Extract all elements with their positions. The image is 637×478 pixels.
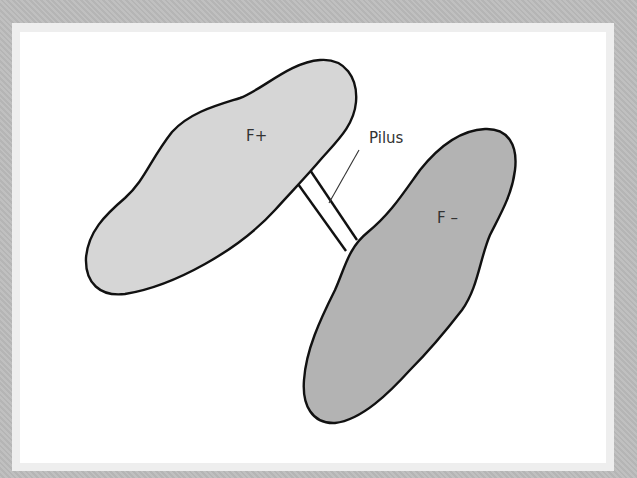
f-minus-cell — [304, 129, 516, 423]
conjugation-diagram: F+ F – Pilus — [0, 0, 637, 478]
f-plus-label: F+ — [246, 127, 267, 145]
f-minus-label: F – — [437, 209, 458, 227]
pilus — [298, 170, 357, 251]
pilus-label: Pilus — [369, 129, 404, 147]
pilus-leader-line — [329, 150, 359, 203]
